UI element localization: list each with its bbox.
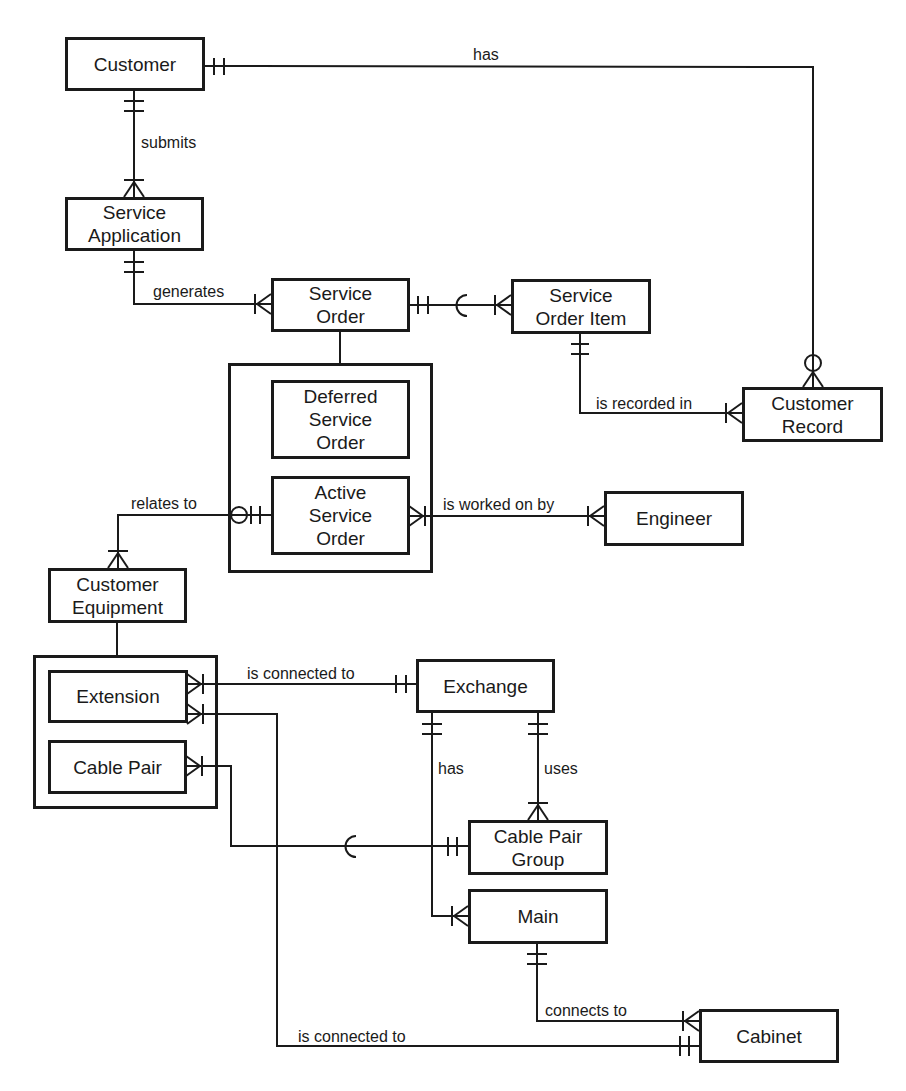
- label-connects-to: connects to: [545, 1002, 627, 1020]
- entity-cable-pair[interactable]: Cable Pair: [48, 740, 187, 794]
- rel-customer-has-customer-record: [204, 58, 823, 387]
- label-generates: generates: [153, 283, 224, 301]
- label-is-recorded-in: is recorded in: [596, 395, 692, 413]
- label-submits: submits: [141, 134, 196, 152]
- entity-service-order[interactable]: Service Order: [271, 278, 410, 332]
- rel-application-generates-order: [124, 250, 271, 314]
- entity-cable-pair-group[interactable]: Cable Pair Group: [468, 820, 608, 875]
- entity-exchange[interactable]: Exchange: [416, 659, 555, 713]
- rel-order-has-order-items: [409, 295, 511, 316]
- entity-extension[interactable]: Extension: [48, 670, 188, 723]
- rel-exchange-has-main: [422, 712, 468, 926]
- label-relates-to: relates to: [131, 495, 197, 513]
- entity-active-service-order[interactable]: Active Service Order: [271, 476, 410, 555]
- label-exchange-has-main: has: [438, 760, 464, 778]
- label-uses: uses: [544, 760, 578, 778]
- label-has-customer-record: has: [473, 46, 499, 64]
- entity-service-order-item[interactable]: Service Order Item: [511, 279, 651, 334]
- entity-main[interactable]: Main: [468, 889, 608, 944]
- label-is-worked-on-by: is worked on by: [443, 496, 554, 514]
- entity-cabinet[interactable]: Cabinet: [699, 1009, 839, 1063]
- label-is-connected-to-cabinet: is connected to: [298, 1028, 406, 1046]
- rel-cable-pair-to-group: [186, 756, 468, 857]
- er-diagram: Customer Service Application Service Ord…: [0, 0, 906, 1091]
- relationship-lines: [0, 0, 906, 1091]
- entity-deferred-service-order[interactable]: Deferred Service Order: [271, 380, 410, 459]
- label-is-connected-to-exchange: is connected to: [247, 665, 355, 683]
- entity-customer-record[interactable]: Customer Record: [742, 387, 883, 442]
- entity-customer[interactable]: Customer: [65, 37, 205, 91]
- entity-service-application[interactable]: Service Application: [65, 197, 204, 251]
- entity-customer-equipment[interactable]: Customer Equipment: [48, 568, 187, 623]
- entity-engineer[interactable]: Engineer: [604, 491, 744, 546]
